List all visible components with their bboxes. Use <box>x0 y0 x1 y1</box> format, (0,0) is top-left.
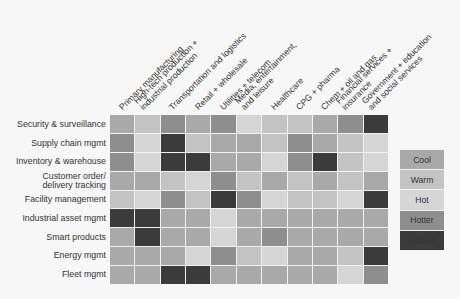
row-label-line: Smart products <box>46 233 106 242</box>
heatmap-cell <box>211 172 235 190</box>
row-label: Energy mgmt <box>54 246 106 265</box>
heatmap-cell <box>135 247 159 265</box>
heatmap-cell <box>364 172 388 190</box>
row-label: Inventory & warehouse <box>16 153 106 172</box>
heatmap-cell <box>364 134 388 152</box>
heatmap-cell <box>211 228 235 246</box>
heatmap-cell <box>237 153 261 171</box>
row-label-line: Energy mgmt <box>54 251 106 260</box>
row-label-line: delivery tracking <box>42 181 106 190</box>
heatmap-cell <box>338 266 362 284</box>
heatmap-cell <box>364 247 388 265</box>
column-labels: Primary manufacturingHigh-tech productio… <box>0 0 460 115</box>
legend: CoolWarmHotHotterHottest <box>400 150 444 251</box>
heatmap-cell <box>135 172 159 190</box>
heatmap-cell <box>186 153 210 171</box>
heatmap-cell <box>161 153 185 171</box>
heatmap-cell <box>186 228 210 246</box>
heatmap-cell <box>262 247 286 265</box>
legend-item: Cool <box>400 150 444 170</box>
heatmap-cell <box>338 247 362 265</box>
heatmap-cell <box>262 209 286 227</box>
heatmap-cell <box>313 266 337 284</box>
heatmap-cell <box>288 134 312 152</box>
row-label-line: Facility management <box>25 195 106 204</box>
row-label: Industrial asset mgmt <box>22 209 106 228</box>
heatmap-cell <box>237 266 261 284</box>
heatmap-cell <box>313 134 337 152</box>
heatmap-cell <box>288 115 312 133</box>
heatmap-cell <box>288 247 312 265</box>
heatmap-cell <box>211 115 235 133</box>
heatmap-cell <box>262 115 286 133</box>
heatmap-cell <box>186 115 210 133</box>
heatmap-cell <box>237 228 261 246</box>
heatmap-cell <box>313 209 337 227</box>
heatmap-cell <box>364 266 388 284</box>
row-label: Facility management <box>25 190 106 209</box>
heatmap-cell <box>161 134 185 152</box>
heatmap-cell <box>110 209 134 227</box>
heatmap-cell <box>186 266 210 284</box>
heatmap-cell <box>186 247 210 265</box>
heatmap-cell <box>135 191 159 209</box>
heatmap-cell <box>338 153 362 171</box>
heatmap-cell <box>313 247 337 265</box>
heatmap-cell <box>237 247 261 265</box>
heatmap-cell <box>135 153 159 171</box>
heatmap-cell <box>161 191 185 209</box>
heatmap-cell <box>262 172 286 190</box>
heatmap-cell <box>313 153 337 171</box>
heatmap-cell <box>237 191 261 209</box>
heatmap-cell <box>161 172 185 190</box>
heatmap-cell <box>364 209 388 227</box>
heatmap-cell <box>211 209 235 227</box>
row-label-line: Security & surveillance <box>17 120 106 129</box>
heatmap-cell <box>135 115 159 133</box>
heatmap-grid <box>110 115 388 284</box>
heatmap-cell <box>364 191 388 209</box>
heatmap-cell <box>237 209 261 227</box>
row-label: Security & surveillance <box>17 115 106 134</box>
heatmap-cell <box>262 228 286 246</box>
row-label-line: Inventory & warehouse <box>16 157 106 166</box>
heatmap-cell <box>262 134 286 152</box>
heatmap-cell <box>211 153 235 171</box>
heatmap-cell <box>135 209 159 227</box>
heatmap-cell <box>237 134 261 152</box>
heatmap-cell <box>161 228 185 246</box>
row-label: Supply chain mgmt <box>31 134 106 153</box>
heatmap-cell <box>262 153 286 171</box>
heatmap-cell <box>110 115 134 133</box>
heatmap-cell <box>110 172 134 190</box>
row-label: Customer order/delivery tracking <box>42 171 106 190</box>
heatmap-cell <box>211 247 235 265</box>
heatmap-cell <box>135 228 159 246</box>
heatmap-cell <box>288 153 312 171</box>
heatmap-cell <box>237 172 261 190</box>
column-label: Media, entertainment,and leisure <box>234 40 306 112</box>
heatmap-cell <box>110 247 134 265</box>
heatmap-cell <box>338 134 362 152</box>
heatmap-cell <box>288 228 312 246</box>
heatmap-cell <box>338 172 362 190</box>
heatmap-cell <box>237 115 261 133</box>
legend-item: Hot <box>400 190 444 210</box>
heatmap-cell <box>313 172 337 190</box>
heatmap-cell <box>313 191 337 209</box>
heatmap-cell <box>186 172 210 190</box>
heatmap-cell <box>110 228 134 246</box>
heatmap-cell <box>262 266 286 284</box>
heatmap-cell <box>161 115 185 133</box>
heatmap-cell <box>364 153 388 171</box>
legend-item: Hotter <box>400 211 444 231</box>
heatmap-cell <box>211 134 235 152</box>
heatmap-cell <box>211 191 235 209</box>
heatmap-cell <box>364 115 388 133</box>
heatmap-cell <box>338 209 362 227</box>
heatmap-cell <box>288 191 312 209</box>
heatmap-cell <box>186 209 210 227</box>
row-label-line: Supply chain mgmt <box>31 139 106 148</box>
legend-item: Hottest <box>400 231 444 251</box>
heatmap-cell <box>288 172 312 190</box>
